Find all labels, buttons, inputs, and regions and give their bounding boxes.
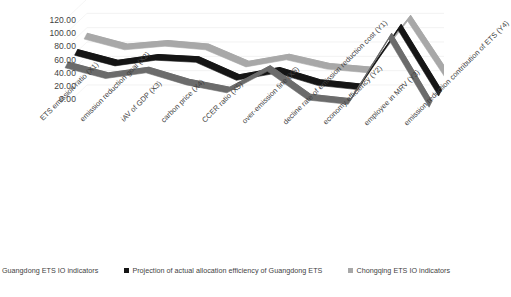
y-tick: 120.00 xyxy=(18,14,76,27)
legend-item[interactable]: Guangdong ETS IO indicators xyxy=(0,266,98,275)
legend-item[interactable]: Projection of actual allocation efficien… xyxy=(124,266,322,275)
x-axis-category-labels: ETS emission ratio (X1) emission reducti… xyxy=(0,110,444,260)
y-tick: 100.00 xyxy=(18,27,76,40)
legend-label: Guangdong ETS IO indicators xyxy=(2,266,98,275)
y-tick: 40.00 xyxy=(18,67,76,80)
legend-swatch-icon xyxy=(124,268,129,273)
legend-swatch-icon xyxy=(348,268,353,273)
chart-legend: Guangdong ETS IO indicators Projection o… xyxy=(0,266,444,275)
y-tick: 80.00 xyxy=(18,40,76,53)
y-tick: 60.00 xyxy=(18,54,76,67)
legend-item[interactable]: Chongqing ETS IO indicators xyxy=(348,266,450,275)
legend-label: Projection of actual allocation efficien… xyxy=(132,266,322,275)
legend-label: Chongqing ETS IO indicators xyxy=(356,266,450,275)
